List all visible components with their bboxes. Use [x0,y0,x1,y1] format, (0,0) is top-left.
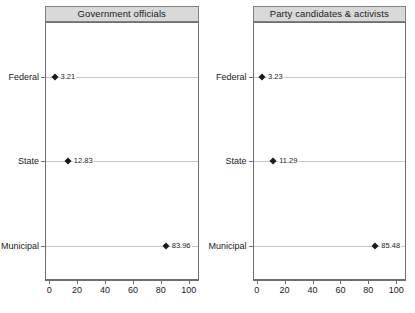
x-axis-left: 0 20 40 60 80 100 [45,280,199,281]
y-axis-label-federal-left: Federal [8,72,39,81]
x-tick-0-right [257,280,258,284]
x-tick-40-left [105,280,106,284]
x-tick-0-left [49,280,50,284]
data-point-state-left [64,158,71,165]
strip-label-left: Government officials [78,9,166,19]
x-axis-label-0-left: 0 [47,286,52,295]
data-label-federal-left: 3.21 [60,73,77,81]
y-tick-municipal-right [249,246,254,247]
x-axis-label-0-right: 0 [254,286,259,295]
dotplot-figure: Government officials Federal 3.21 State … [0,0,415,313]
x-axis-label-100-left: 100 [181,286,196,295]
x-axis-right: 0 20 40 60 80 100 [253,280,407,281]
x-axis-label-40-left: 40 [100,286,110,295]
panel-party-candidates-activists: Party candidates & activists Federal 3.2… [208,0,415,313]
x-tick-100-left [189,280,190,284]
plot-area-right: Federal 3.23 State 11.29 Municipal 85.48 [253,22,407,280]
data-point-state-right [270,158,277,165]
x-tick-80-right [368,280,369,284]
x-axis-label-80-right: 80 [363,286,373,295]
x-axis-label-60-right: 60 [335,286,345,295]
data-point-municipal-left [162,242,169,249]
panel-government-officials: Government officials Federal 3.21 State … [0,0,208,313]
y-axis-label-state-left: State [18,157,39,166]
y-axis-label-municipal-right: Municipal [208,241,246,250]
reference-line-state-right [254,161,406,162]
data-point-municipal-right [372,242,379,249]
y-tick-federal-right [249,77,254,78]
x-axis-label-40-right: 40 [307,286,317,295]
x-tick-20-right [285,280,286,284]
data-point-federal-right [259,73,266,80]
plot-area-left: Federal 3.21 State 12.83 Municipal 83.96 [45,22,199,280]
y-tick-state-left [41,161,46,162]
x-tick-40-right [313,280,314,284]
data-label-federal-right: 3.23 [267,73,284,81]
strip-header-right: Party candidates & activists [253,6,407,22]
y-axis-label-state-right: State [225,157,246,166]
strip-header-left: Government officials [45,6,199,22]
data-label-municipal-left: 83.96 [171,242,192,250]
x-axis-label-100-right: 100 [389,286,404,295]
y-tick-municipal-left [41,246,46,247]
x-tick-60-right [340,280,341,284]
y-axis-label-federal-right: Federal [216,72,247,81]
y-tick-federal-left [41,77,46,78]
x-axis-label-60-left: 60 [128,286,138,295]
x-tick-60-left [133,280,134,284]
x-tick-20-left [77,280,78,284]
x-axis-label-20-left: 20 [72,286,82,295]
x-axis-label-80-left: 80 [156,286,166,295]
x-axis-label-20-right: 20 [280,286,290,295]
data-point-federal-left [51,73,58,80]
y-axis-label-municipal-left: Municipal [1,241,39,250]
y-tick-state-right [249,161,254,162]
x-tick-80-left [161,280,162,284]
x-tick-100-right [396,280,397,284]
strip-label-right: Party candidates & activists [270,9,389,19]
data-label-municipal-right: 85.48 [380,242,401,250]
data-label-state-left: 12.83 [73,157,94,165]
data-label-state-right: 11.29 [278,157,298,165]
